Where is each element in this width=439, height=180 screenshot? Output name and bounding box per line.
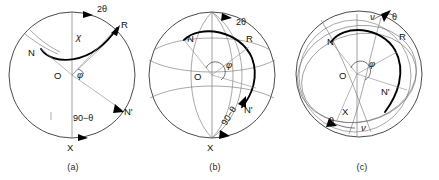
label-nu-top-c: ν [370,11,375,22]
label-theta-top-c: θ [392,12,397,22]
panel-a-drawing: 2θ χ N R O φ N' 90−θ X [0,0,146,160]
caption-a: (a) [0,162,146,172]
label-phi-b: φ [226,59,232,70]
label-phi-a: φ [77,69,83,80]
label-Nprime-b: N' [244,104,253,115]
label-chi-a: χ [75,31,82,42]
arrowhead-top-b [221,13,232,21]
figure-three-panel-projections: 2θ χ N R O φ N' 90−θ X (a) [0,0,439,180]
arrowhead-Nprime-a [113,104,124,113]
panel-b-drawing: 2θ N R O φ N' 90−θ X [140,0,290,160]
caption-b: (b) [140,162,290,172]
label-nu-bottom-c: ν [361,122,366,133]
label-O-b: O [194,71,201,82]
panel-b: 2θ N R O φ N' 90−θ X (b) [140,0,290,180]
label-phi-c: φ [369,58,375,69]
panel-c-drawing: ν θ R N O φ N' X θ ν [285,0,439,160]
label-theta-bottom-c: θ [329,116,334,126]
label-Nprime-c: N' [381,86,390,97]
label-N-c: N [327,36,334,47]
label-two-theta-b: 2θ [236,17,246,27]
label-Nprime-a: N' [124,106,133,117]
panel-a: 2θ χ N R O φ N' 90−θ X (a) [0,0,146,180]
label-X-b: X [207,142,214,153]
arrowhead-bottom-a [78,134,88,141]
label-R-a: R [121,19,128,30]
ray-to-N-b [184,40,212,75]
label-X-c: X [342,106,349,117]
label-N-a: N [28,47,35,58]
label-O-c: O [339,70,346,81]
ray-to-R-c [357,52,397,74]
label-R-c: R [399,31,406,42]
arrowhead-top-c [381,10,391,22]
label-two-theta-a: 2θ [97,4,107,14]
arrowhead-top-a [83,11,93,18]
label-R-b: R [246,33,253,44]
label-X-a: X [67,142,74,153]
caption-c: (c) [285,162,439,172]
label-ninety-minus-theta-a: 90−θ [73,113,93,123]
label-O-a: O [54,70,61,81]
arrowhead-bottom-b [219,130,230,139]
ray-to-Nprime-a [72,75,122,110]
label-N-b: N [187,33,194,44]
panel-c: ν θ R N O φ N' X θ ν (c) [285,0,439,180]
